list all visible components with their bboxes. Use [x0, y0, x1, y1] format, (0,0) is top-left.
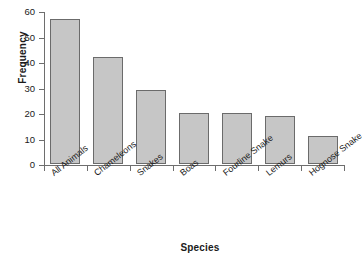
x-axis-tick: [344, 166, 345, 171]
x-axis-title: Species: [0, 242, 362, 253]
y-axis-tick-label: 30: [9, 84, 35, 93]
y-axis-tick: [39, 140, 44, 141]
bar-chart-figure: Frequency 0102030405060 All AnimalsChame…: [0, 0, 362, 266]
y-axis-tick: [39, 12, 44, 13]
y-axis-tick-label: 20: [9, 109, 35, 118]
y-axis-tick: [39, 38, 44, 39]
bar: [50, 19, 80, 164]
plot-area: 0102030405060: [44, 12, 344, 165]
y-axis-tick: [39, 63, 44, 64]
y-axis-tick: [39, 89, 44, 90]
x-axis-tick-labels: All AnimalsChameleonsSnakesBoasFourline …: [44, 166, 344, 240]
y-axis-tick-label: 40: [9, 58, 35, 67]
y-axis-tick-label: 0: [9, 160, 35, 169]
y-axis-tick: [39, 114, 44, 115]
y-axis-tick-label: 10: [9, 135, 35, 144]
y-axis-tick-label: 50: [9, 33, 35, 42]
bar: [136, 90, 166, 164]
y-axis-line: [44, 12, 45, 166]
y-axis-tick-label: 60: [9, 7, 35, 16]
